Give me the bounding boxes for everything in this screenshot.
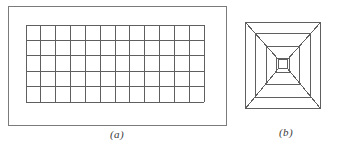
panel-a-caption: (a) (0, 128, 234, 140)
figure-drawing (0, 0, 337, 147)
figure-container: (a) (b) (0, 0, 337, 147)
panel-b-caption: (b) (235, 126, 337, 138)
